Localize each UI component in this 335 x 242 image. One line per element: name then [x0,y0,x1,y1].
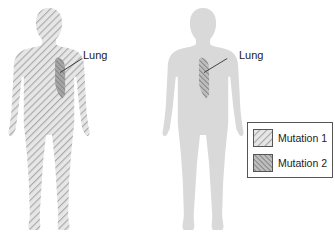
legend-label: Mutation 2 [278,157,327,169]
hatch-forward-swatch-icon [253,129,273,147]
left-body-figure [6,2,92,240]
left-lung-label: Lung [83,49,107,61]
legend: Mutation 1 Mutation 2 [247,122,333,178]
hatch-backward-swatch-icon [253,154,273,172]
right-lung-label: Lung [239,49,263,61]
legend-item-mutation-1: Mutation 1 [253,129,327,147]
legend-label: Mutation 1 [278,132,327,144]
right-body-figure [160,2,246,240]
legend-item-mutation-2: Mutation 2 [253,154,327,172]
